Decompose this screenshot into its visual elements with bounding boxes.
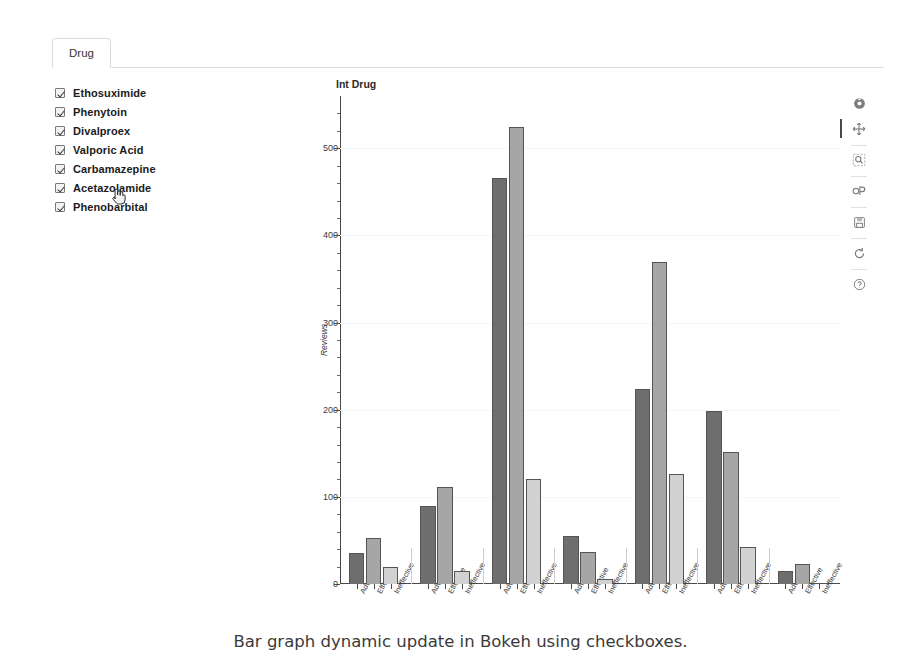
- y-axis-minor-tick: [337, 113, 341, 114]
- y-axis-minor-tick: [337, 375, 341, 376]
- x-axis-tick: [391, 584, 392, 589]
- x-axis-tick: [374, 584, 375, 589]
- box-zoom-icon[interactable]: [848, 149, 870, 171]
- x-axis-tick: [534, 584, 535, 589]
- bar[interactable]: [563, 536, 579, 584]
- x-axis-tick: [731, 584, 732, 589]
- checkbox-checked-icon[interactable]: [55, 145, 65, 155]
- checkbox-row[interactable]: Acetazolamide: [55, 179, 245, 197]
- group-separator: [769, 548, 770, 584]
- bar[interactable]: [669, 474, 685, 584]
- y-axis-minor-tick: [337, 479, 341, 480]
- checkbox-row[interactable]: Divalproex: [55, 122, 245, 140]
- y-gridline: [340, 323, 840, 324]
- bar[interactable]: [652, 262, 668, 584]
- y-axis-minor-tick: [337, 131, 341, 132]
- group-separator: [554, 548, 555, 584]
- group-separator: [483, 548, 484, 584]
- figure-caption: Bar graph dynamic update in Bokeh using …: [0, 632, 921, 651]
- group-separator: [626, 548, 627, 584]
- checkbox-row[interactable]: Phenytoin: [55, 103, 245, 121]
- bar[interactable]: [580, 552, 596, 584]
- y-axis-tick-label: 200: [323, 405, 338, 415]
- y-axis-minor-tick: [337, 340, 341, 341]
- y-gridline: [340, 148, 840, 149]
- y-axis-minor-tick: [337, 183, 341, 184]
- y-axis-minor-tick: [337, 270, 341, 271]
- plot-title: Int Drug: [336, 78, 376, 90]
- y-axis-minor-tick: [337, 427, 341, 428]
- y-axis-minor-tick: [337, 357, 341, 358]
- y-axis-tick-label: 400: [323, 230, 338, 240]
- bar[interactable]: [706, 411, 722, 584]
- y-axis-tick-label: 100: [323, 492, 338, 502]
- bar[interactable]: [420, 506, 436, 584]
- x-axis-tick: [571, 584, 572, 589]
- y-axis-minor-tick: [337, 305, 341, 306]
- checkbox-checked-icon[interactable]: [55, 107, 65, 117]
- checkbox-label: Valporic Acid: [73, 144, 144, 156]
- bar[interactable]: [635, 389, 651, 584]
- checkbox-checked-icon[interactable]: [55, 183, 65, 193]
- y-gridline: [340, 497, 840, 498]
- toolbar-divider: [851, 176, 867, 177]
- bokeh-toolbar: [845, 92, 873, 299]
- bokeh-plot[interactable]: Int Drug Reviews 0100200300400500Adverse…: [300, 78, 865, 638]
- y-axis-minor-tick: [337, 288, 341, 289]
- bar[interactable]: [740, 547, 756, 584]
- bar[interactable]: [492, 178, 508, 584]
- toolbar-divider: [851, 207, 867, 208]
- y-axis-minor-tick: [337, 253, 341, 254]
- y-axis-minor-tick: [337, 514, 341, 515]
- bar[interactable]: [509, 127, 525, 584]
- y-axis-line: [340, 96, 341, 584]
- bar[interactable]: [526, 479, 542, 584]
- checkbox-row[interactable]: Phenobarbital: [55, 198, 245, 216]
- bar[interactable]: [437, 487, 453, 584]
- checkbox-row[interactable]: Carbamazepine: [55, 160, 245, 178]
- y-axis-label: Reviews: [319, 324, 329, 356]
- x-axis-tick: [714, 584, 715, 589]
- y-axis-minor-tick: [337, 549, 341, 550]
- y-axis-minor-tick: [337, 532, 341, 533]
- bar[interactable]: [349, 553, 365, 584]
- toolbar-divider: [851, 238, 867, 239]
- y-gridline: [340, 235, 840, 236]
- checkbox-row[interactable]: Valporic Acid: [55, 141, 245, 159]
- y-axis-minor-tick: [337, 445, 341, 446]
- plot-frame[interactable]: Reviews 0100200300400500AdverseEffective…: [340, 96, 840, 584]
- y-axis-minor-tick: [337, 166, 341, 167]
- checkbox-checked-icon[interactable]: [55, 88, 65, 98]
- x-axis-tick: [517, 584, 518, 589]
- y-axis-minor-tick: [337, 392, 341, 393]
- checkbox-checked-icon[interactable]: [55, 126, 65, 136]
- x-axis-tick: [588, 584, 589, 589]
- bar[interactable]: [366, 538, 382, 584]
- group-separator: [411, 548, 412, 584]
- save-icon[interactable]: [848, 211, 870, 233]
- checkbox-label: Phenytoin: [73, 106, 127, 118]
- group-separator: [697, 548, 698, 584]
- y-gridline: [340, 410, 840, 411]
- reset-icon[interactable]: [848, 242, 870, 264]
- tab-drug[interactable]: Drug: [52, 38, 111, 68]
- pan-icon[interactable]: [848, 118, 870, 140]
- x-axis-tick: [500, 584, 501, 589]
- toolbar-divider: [851, 269, 867, 270]
- checkbox-label: Divalproex: [73, 125, 130, 137]
- checkbox-checked-icon[interactable]: [55, 164, 65, 174]
- x-axis-tick: [605, 584, 606, 589]
- checkbox-label: Ethosuximide: [73, 87, 146, 99]
- toolbar-divider: [851, 145, 867, 146]
- x-axis-tick-label: Ineffective: [820, 561, 844, 595]
- tab-strip: Drug: [52, 38, 884, 68]
- help-icon[interactable]: [848, 273, 870, 295]
- checkbox-label: Acetazolamide: [73, 182, 151, 194]
- checkbox-label: Phenobarbital: [73, 201, 148, 213]
- wheel-zoom-icon[interactable]: [848, 180, 870, 202]
- x-axis-tick: [357, 584, 358, 589]
- checkbox-checked-icon[interactable]: [55, 202, 65, 212]
- y-axis-minor-tick: [337, 462, 341, 463]
- bar[interactable]: [723, 452, 739, 584]
- checkbox-row[interactable]: Ethosuximide: [55, 84, 245, 102]
